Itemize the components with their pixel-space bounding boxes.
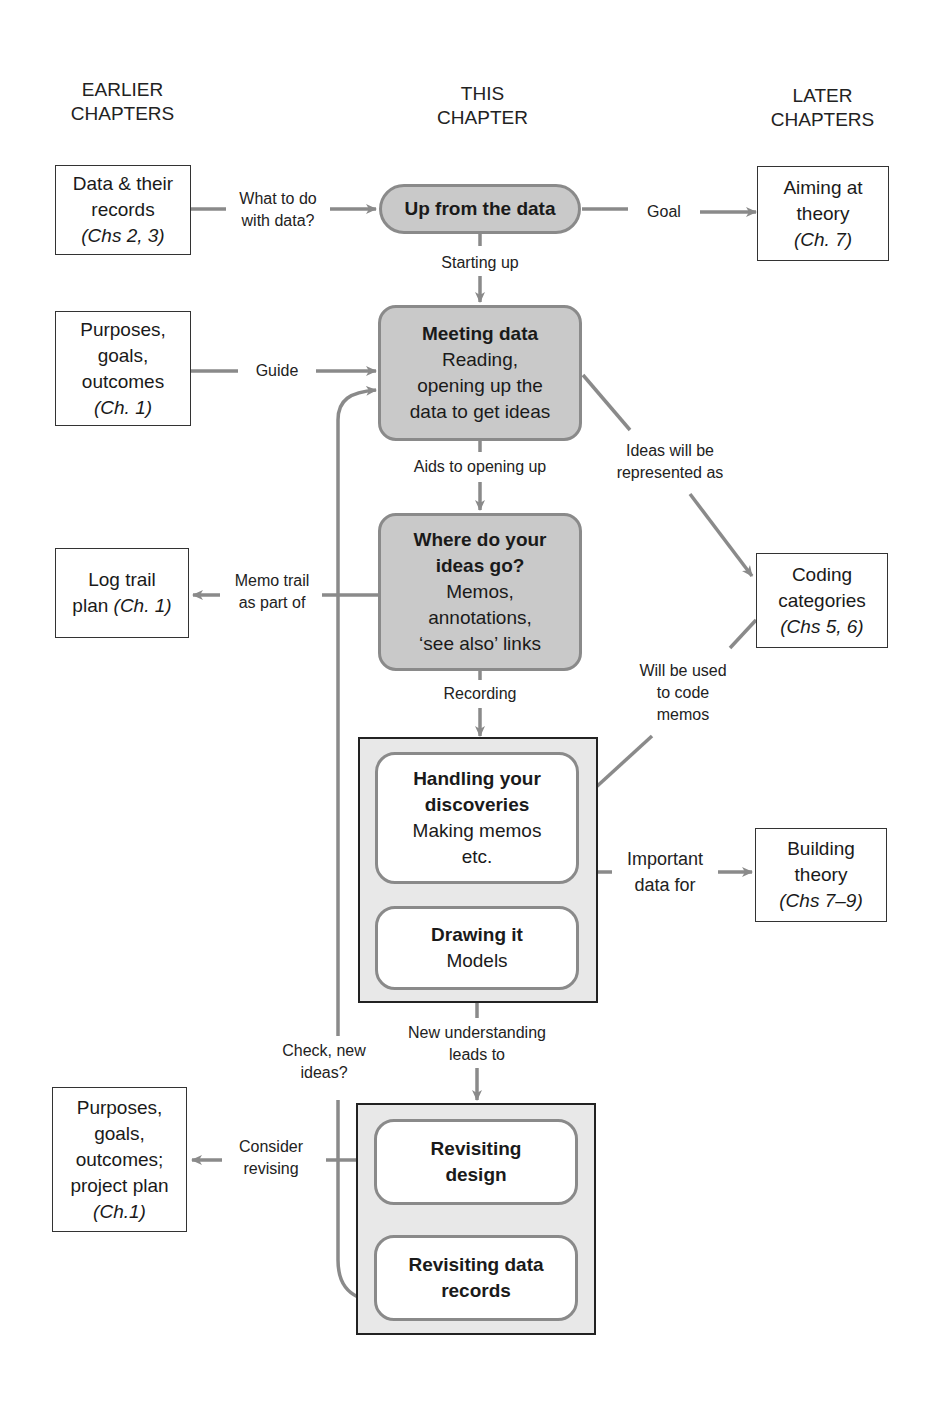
box-text: Building: [787, 836, 855, 862]
box-revisiting-design: Revisiting design: [374, 1119, 578, 1205]
box-text: project plan: [70, 1173, 168, 1199]
box-text: Coding: [792, 562, 852, 588]
label-important-data: Important data for: [612, 846, 718, 898]
label-line: Guide: [238, 360, 316, 382]
label-what-to-do: What to do with data?: [226, 188, 330, 232]
label-line: as part of: [222, 592, 322, 614]
box-text: Aiming at: [783, 175, 862, 201]
box-text: Models: [446, 948, 507, 974]
box-title: Revisiting data: [408, 1252, 543, 1278]
box-text: outcomes: [82, 369, 164, 395]
box-text: theory: [795, 862, 848, 888]
box-title: Where do your: [413, 527, 546, 553]
label-will-be-used: Will be used to code memos: [624, 660, 742, 726]
box-text-line2: plan (Ch. 1): [72, 593, 171, 619]
label-check-new-ideas: Check, new ideas?: [274, 1040, 374, 1084]
label-line: Check, new: [274, 1040, 374, 1062]
chapter-ref: (Ch. 7): [794, 227, 852, 253]
label-line: with data?: [226, 210, 330, 232]
box-title: discoveries: [425, 792, 530, 818]
label-line: Consider: [224, 1136, 318, 1158]
box-title: design: [445, 1162, 506, 1188]
label-memo-trail: Memo trail as part of: [222, 570, 322, 614]
label-line: Goal: [628, 201, 700, 223]
box-title: Meeting data: [422, 321, 538, 347]
box-text: Memos,: [446, 579, 514, 605]
box-title: ideas go?: [436, 553, 525, 579]
box-where-ideas-go: Where do your ideas go? Memos, annotatio…: [378, 513, 582, 671]
box-log-trail: Log trail plan (Ch. 1): [55, 548, 189, 638]
label-line: Recording: [420, 683, 540, 705]
label-starting-up: Starting up: [416, 252, 544, 274]
box-text: ‘see also’ links: [419, 631, 541, 657]
box-text: goals,: [94, 1121, 145, 1147]
chapter-ref: (Ch. 1): [94, 395, 152, 421]
box-title: Drawing it: [431, 922, 523, 948]
box-purposes-top: Purposes, goals, outcomes (Ch. 1): [55, 311, 191, 426]
label-goal: Goal: [628, 201, 700, 223]
label-line: What to do: [226, 188, 330, 210]
box-text: categories: [778, 588, 866, 614]
box-text: plan: [72, 595, 113, 616]
chapter-ref: (Chs 2, 3): [81, 223, 164, 249]
box-text: Purposes,: [77, 1095, 163, 1121]
chapter-ref: (Chs 5, 6): [780, 614, 863, 640]
box-text: Log trail: [88, 567, 156, 593]
header-line: THIS: [400, 82, 565, 106]
box-title: Up from the data: [405, 196, 556, 222]
label-line: to code: [624, 682, 742, 704]
box-text: goals,: [98, 343, 149, 369]
box-title: Handling your: [413, 766, 541, 792]
chapter-ref: (Ch.1): [93, 1199, 146, 1225]
label-new-understanding: New understanding leads to: [392, 1022, 562, 1066]
box-aiming-theory: Aiming at theory (Ch. 7): [757, 166, 889, 261]
box-text: Reading,: [442, 347, 518, 373]
label-line: memos: [624, 704, 742, 726]
box-text: records: [91, 197, 154, 223]
header-line: EARLIER: [40, 78, 205, 102]
header-earlier-chapters: EARLIER CHAPTERS: [40, 78, 205, 126]
label-line: Important: [612, 846, 718, 872]
label-guide: Guide: [238, 360, 316, 382]
label-line: Starting up: [416, 252, 544, 274]
box-text: opening up the: [417, 373, 543, 399]
label-line: revising: [224, 1158, 318, 1180]
label-recording: Recording: [420, 683, 540, 705]
box-text: etc.: [462, 844, 493, 870]
chapter-ref: (Ch. 1): [114, 595, 172, 616]
box-meeting-data: Meeting data Reading, opening up the dat…: [378, 305, 582, 441]
header-later-chapters: LATER CHAPTERS: [740, 84, 905, 132]
box-data-records: Data & their records (Chs 2, 3): [55, 165, 191, 255]
box-title: Revisiting: [431, 1136, 522, 1162]
box-handling-discoveries: Handling your discoveries Making memos e…: [375, 752, 579, 884]
label-line: data for: [612, 872, 718, 898]
box-text: annotations,: [428, 605, 532, 631]
box-text: data to get ideas: [410, 399, 551, 425]
header-this-chapter: THIS CHAPTER: [400, 82, 565, 130]
box-text: Data & their: [73, 171, 173, 197]
label-line: leads to: [392, 1044, 562, 1066]
label-aids-to-opening-up: Aids to opening up: [396, 456, 564, 478]
label-line: Ideas will be: [600, 440, 740, 462]
box-revisiting-data-records: Revisiting data records: [374, 1235, 578, 1321]
box-text: Making memos: [413, 818, 542, 844]
box-coding-categories: Coding categories (Chs 5, 6): [756, 553, 888, 648]
header-line: CHAPTER: [400, 106, 565, 130]
box-text: outcomes;: [76, 1147, 164, 1173]
box-drawing-it: Drawing it Models: [375, 906, 579, 990]
chapter-ref: (Chs 7–9): [779, 888, 862, 914]
box-building-theory: Building theory (Chs 7–9): [755, 828, 887, 922]
label-line: Memo trail: [222, 570, 322, 592]
box-text: theory: [797, 201, 850, 227]
header-line: CHAPTERS: [40, 102, 205, 126]
label-line: ideas?: [274, 1062, 374, 1084]
label-line: New understanding: [392, 1022, 562, 1044]
box-text: Purposes,: [80, 317, 166, 343]
label-consider-revising: Consider revising: [224, 1136, 318, 1180]
box-up-from-data: Up from the data: [379, 184, 581, 234]
label-line: Will be used: [624, 660, 742, 682]
header-line: LATER: [740, 84, 905, 108]
label-line: represented as: [600, 462, 740, 484]
label-line: Aids to opening up: [396, 456, 564, 478]
box-title: records: [441, 1278, 511, 1304]
